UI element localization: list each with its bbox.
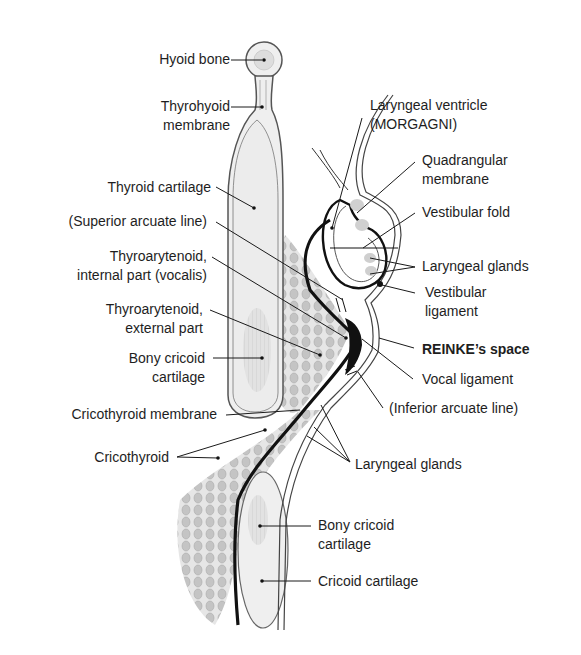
label-bony-cricoid-cartilage-upper: Bony cricoidcartilage bbox=[129, 349, 205, 387]
label-laryngeal-glands-upper: Laryngeal glands bbox=[422, 257, 529, 276]
vestibular-fold-shape bbox=[312, 148, 398, 288]
cricoid-cartilage-shape bbox=[238, 472, 288, 628]
thyroid-cartilage-shape bbox=[228, 76, 283, 418]
label-inferior-arcuate-line: (Inferior arcuate line) bbox=[389, 399, 518, 418]
label-cricothyroid: Cricothyroid bbox=[94, 448, 169, 467]
label-vestibular-ligament: Vestibularligament bbox=[425, 283, 486, 321]
label-bony-cricoid-cartilage-lower: Bony cricoidcartilage bbox=[318, 516, 394, 554]
label-vestibular-fold: Vestibular fold bbox=[422, 203, 510, 222]
label-reinkes-space: REINKE’s space bbox=[422, 340, 530, 359]
label-thyroid-cartilage: Thyroid cartilage bbox=[108, 178, 212, 197]
label-thyrohyoid-membrane: Thyrohyoidmembrane bbox=[161, 97, 230, 135]
label-laryngeal-ventricle: Laryngeal ventricle(MORGAGNI) bbox=[370, 96, 488, 134]
label-cricoid-cartilage: Cricoid cartilage bbox=[318, 572, 418, 591]
label-cricothyroid-membrane: Cricothyroid membrane bbox=[72, 405, 218, 424]
label-quadrangular-membrane: Quadrangularmembrane bbox=[422, 151, 508, 189]
label-thyroarytenoid-internal: Thyroarytenoid,internal part (vocalis) bbox=[77, 247, 207, 285]
label-vocal-ligament: Vocal ligament bbox=[422, 370, 513, 389]
label-hyoid-bone: Hyoid bone bbox=[159, 50, 230, 69]
label-thyroarytenoid-external: Thyroarytenoid,external part bbox=[106, 300, 203, 338]
larynx-diagram bbox=[0, 0, 581, 655]
label-laryngeal-glands-lower: Laryngeal glands bbox=[355, 455, 462, 474]
label-superior-arcuate-line: (Superior arcuate line) bbox=[68, 212, 207, 231]
